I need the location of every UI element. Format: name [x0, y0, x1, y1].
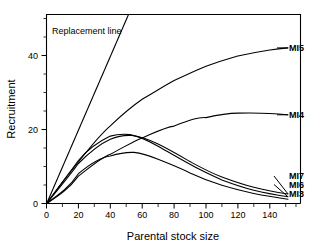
series-label-mi4: MI4 — [289, 110, 304, 120]
y-axis-title: Recruitment — [5, 79, 17, 138]
x-tick-label-120: 120 — [230, 210, 245, 220]
x-tick-label-40: 40 — [105, 210, 115, 220]
x-tick-label-0: 0 — [44, 210, 49, 220]
x-tick-label-60: 60 — [137, 210, 147, 220]
curve-mi5 — [47, 48, 288, 203]
replacement-line-series — [47, 15, 129, 204]
series-label-mi3: MI3 — [289, 189, 304, 199]
x-tick-label-80: 80 — [169, 210, 179, 220]
x-tick-label-20: 20 — [73, 210, 83, 220]
series-curves — [47, 48, 288, 203]
series-leader-lines — [274, 48, 288, 197]
series-label-mi5: MI5 — [289, 43, 304, 53]
x-axis-title: Parental stock size — [127, 230, 219, 242]
y-tick-labels: 0 20 40 — [28, 51, 38, 209]
x-tick-labels: 0 20 40 60 80 100 120 140 — [44, 210, 277, 220]
curve-mi3 — [47, 152, 288, 203]
y-tick-label-0: 0 — [33, 199, 38, 209]
y-tick-label-20: 20 — [28, 125, 38, 135]
axes-frame — [47, 14, 301, 204]
y-tick-label-40: 40 — [28, 51, 38, 61]
x-tick-label-140: 140 — [262, 210, 277, 220]
replacement-line-annotation: Replacement line — [52, 26, 122, 36]
chart-figure: 0 20 40 60 80 100 120 140 0 20 40 Parent… — [0, 0, 316, 249]
y-major-ticks — [42, 56, 47, 204]
chart-canvas: 0 20 40 60 80 100 120 140 0 20 40 Parent… — [0, 0, 316, 249]
x-tick-label-100: 100 — [198, 210, 213, 220]
